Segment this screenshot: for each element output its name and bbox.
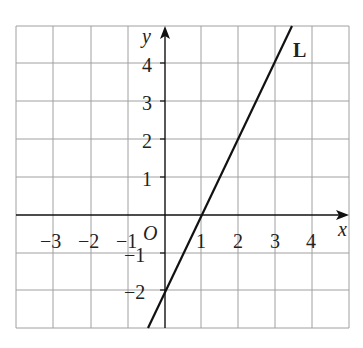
- origin-label: O: [143, 222, 157, 244]
- axes: [16, 33, 343, 328]
- axis-ticks: [160, 63, 165, 290]
- coordinate-plane: y x O L −3 −2 −1 1 2 3 4 4 3 2 1 −1 −2: [0, 0, 363, 348]
- x-axis-label: x: [337, 218, 347, 240]
- x-tick-label: −3: [40, 230, 61, 252]
- y-tick-label: 2: [142, 130, 152, 152]
- x-tick-label: −2: [78, 230, 99, 252]
- y-tick-label: −2: [124, 281, 145, 303]
- grid: [16, 26, 349, 328]
- y-tick-label: 4: [142, 54, 152, 76]
- x-tick-label: 3: [270, 230, 280, 252]
- y-tick-label: 1: [142, 168, 152, 190]
- x-tick-labels: −3 −2 −1 1 2 3 4: [40, 230, 316, 252]
- x-tick-label: 1: [196, 230, 206, 252]
- y-tick-label: 3: [142, 92, 152, 114]
- line-name-label: L: [293, 39, 306, 61]
- y-axis-label: y: [140, 25, 151, 48]
- x-tick-label: 2: [233, 230, 243, 252]
- y-tick-label: −1: [124, 244, 145, 266]
- x-tick-label: 4: [306, 230, 316, 252]
